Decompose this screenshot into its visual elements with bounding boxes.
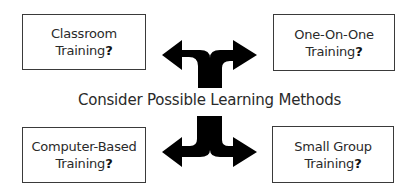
option-line2: Training? [304,155,361,172]
option-line2-text: Training [55,156,105,171]
option-one-on-one-training: One-On-One Training? [273,14,395,71]
option-line1: Computer-Based [31,138,136,155]
question-mark: ? [105,156,112,171]
option-line2-text: Training [305,44,355,59]
option-line2-text: Training [304,156,354,171]
option-line2: Training? [55,42,112,59]
option-computer-based-training: Computer-Based Training? [22,127,146,183]
option-line1: One-On-One [294,26,374,43]
option-line2: Training? [55,155,112,172]
option-line1: Small Group [294,138,372,155]
question-mark: ? [355,44,362,59]
option-small-group-training: Small Group Training? [272,126,394,183]
option-line2-text: Training [55,43,105,58]
option-line2: Training? [305,43,362,60]
question-mark: ? [354,156,361,171]
option-line1: Classroom [51,25,117,42]
center-label: Consider Possible Learning Methods [0,91,419,109]
question-mark: ? [105,43,112,58]
option-classroom-training: Classroom Training? [22,14,146,70]
